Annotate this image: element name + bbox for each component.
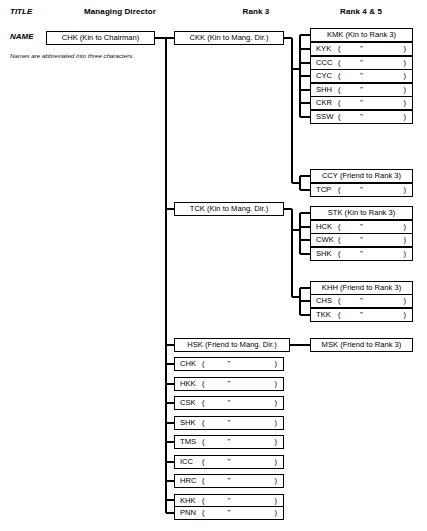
node-hkk[interactable]: HKK ( " ) [174,377,284,391]
node-close-paren: ) [403,295,406,307]
ditto-mark: " [311,221,412,233]
node-ssw[interactable]: SSW ( " ) [310,110,413,124]
node-icc[interactable]: ICC ( " ) [174,455,284,469]
node-close-paren: ) [274,417,277,429]
node-kmk[interactable]: KMK (Kin to Rank 3) [310,28,413,42]
node-close-paren: ) [403,221,406,233]
ditto-mark: " [311,295,412,307]
node-close-paren: ) [403,309,406,321]
node-shk-rank45[interactable]: SHK ( " ) [310,247,413,261]
node-ckk[interactable]: CKK (Kin to Mang. Dir.) [174,31,284,45]
ditto-mark: " [311,84,412,96]
node-close-paren: ) [403,70,406,82]
node-tcp[interactable]: TCP ( " ) [310,183,413,197]
node-close-paren: ) [403,84,406,96]
node-close-paren: ) [403,234,406,246]
node-close-paren: ) [274,475,277,487]
ditto-mark: " [311,97,412,109]
node-close-paren: ) [274,378,277,390]
node-close-paren: ) [274,397,277,409]
ditto-mark: " [175,456,283,468]
node-chs[interactable]: CHS ( " ) [310,294,413,308]
node-close-paren: ) [274,456,277,468]
node-stk[interactable]: STK (Kin to Rank 3) [310,206,413,220]
node-close-paren: ) [274,507,277,519]
ditto-mark: " [311,248,412,260]
node-cyc[interactable]: CYC ( " ) [310,69,413,83]
node-close-paren: ) [403,43,406,55]
node-close-paren: ) [274,436,277,448]
ditto-mark: " [175,417,283,429]
ditto-mark: " [175,507,283,519]
ditto-mark: " [175,475,283,487]
ditto-mark: " [175,358,283,370]
node-ccc[interactable]: CCC ( " ) [310,56,413,70]
node-ccy[interactable]: CCY (Friend to Rank 3) [310,169,413,183]
node-close-paren: ) [403,184,406,196]
node-close-paren: ) [403,248,406,260]
node-khh[interactable]: KHH (Friend to Rank 3) [310,281,413,295]
node-tck[interactable]: TCK (Kin to Mang. Dir.) [174,202,284,216]
ditto-mark: " [311,184,412,196]
node-hrc[interactable]: HRC ( " ) [174,474,284,488]
org-chart: Managing Director Rank 3 Rank 4 & 5 TITL… [0,0,427,531]
node-csk[interactable]: CSK ( " ) [174,396,284,410]
ditto-mark: " [175,397,283,409]
node-msk[interactable]: MSK (Friend to Rank 3) [310,338,413,352]
node-chk-root[interactable]: CHK (Kin to Chairman) [46,31,155,45]
ditto-mark: " [311,70,412,82]
node-tkk[interactable]: TKK ( " ) [310,308,413,322]
node-ckr[interactable]: CKR ( " ) [310,96,413,110]
node-shk-rank3[interactable]: SHK ( " ) [174,416,284,430]
node-close-paren: ) [403,57,406,69]
ditto-mark: " [311,43,412,55]
ditto-mark: " [311,57,412,69]
node-hsk[interactable]: HSK (Friend to Mang. Dir.) [174,338,290,352]
node-chk[interactable]: CHK ( " ) [174,357,284,371]
ditto-mark: " [311,309,412,321]
ditto-mark: " [311,111,412,123]
node-pnn[interactable]: PNN ( " ) [174,506,284,520]
node-tms[interactable]: TMS ( " ) [174,435,284,449]
ditto-mark: " [175,436,283,448]
ditto-mark: " [175,495,283,507]
node-close-paren: ) [274,358,277,370]
node-close-paren: ) [403,111,406,123]
ditto-mark: " [311,234,412,246]
node-shh[interactable]: SHH ( " ) [310,83,413,97]
node-kyk[interactable]: KYK ( " ) [310,42,413,56]
ditto-mark: " [175,378,283,390]
node-hck[interactable]: HCK ( " ) [310,220,413,234]
node-close-paren: ) [403,97,406,109]
node-cwk[interactable]: CWK ( " ) [310,233,413,247]
